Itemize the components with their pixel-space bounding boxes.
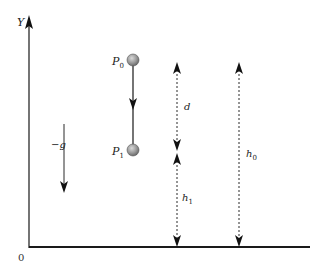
h0-label: h0	[246, 148, 257, 162]
d-bottom-arrowhead-icon	[173, 139, 181, 151]
h0-bottom-arrowhead-icon	[235, 235, 243, 247]
fall-path	[129, 60, 137, 150]
dimension-h0	[235, 62, 243, 247]
h1-label: h1	[182, 192, 193, 206]
h0-top-arrowhead-icon	[235, 62, 243, 74]
dimension-d	[173, 62, 181, 151]
y-axis-label: Y	[17, 16, 26, 29]
origin-label: 0	[18, 252, 24, 263]
ball-p1-icon	[127, 144, 139, 156]
d-label: d	[184, 101, 190, 112]
h1-bottom-arrowhead-icon	[173, 235, 181, 247]
point-p1-label: P1	[111, 145, 124, 160]
h1-top-arrowhead-icon	[173, 153, 181, 165]
y-axis	[25, 15, 33, 248]
d-top-arrowhead-icon	[173, 62, 181, 74]
gravity-arrow	[60, 124, 68, 193]
ball-p0-icon	[127, 54, 139, 66]
dimension-h1	[173, 153, 181, 247]
point-p0-label: P0	[111, 55, 124, 70]
gravity-label: −g	[51, 139, 66, 150]
free-fall-diagram: Y 0 −g P0 P1 d h1 h0	[0, 0, 322, 273]
